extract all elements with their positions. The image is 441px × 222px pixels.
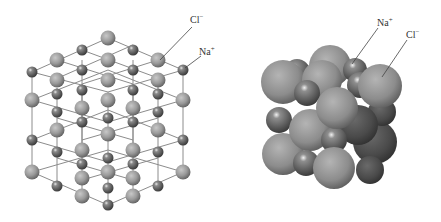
na-ion (266, 107, 292, 133)
ion-symbol: Na (199, 46, 211, 57)
na-ion (103, 153, 114, 164)
lattice-ions (25, 31, 191, 211)
na-ion (128, 117, 139, 128)
cl-ion (50, 73, 65, 88)
cl-ion (313, 147, 355, 189)
cl-ion (75, 171, 90, 186)
na-ion (153, 107, 164, 118)
na-ion (128, 159, 139, 170)
cl-ion (176, 93, 191, 108)
na-ion (52, 89, 63, 100)
cl-ion (75, 189, 90, 204)
na-leader-line (185, 56, 201, 68)
na-ion (103, 183, 114, 194)
nacl-diagram (0, 0, 441, 222)
na-label-right: Na+ (377, 16, 393, 28)
na-ion (77, 117, 88, 128)
space-filling-model (261, 28, 407, 189)
cl-ion (151, 53, 166, 68)
ion-charge: + (211, 45, 215, 53)
cl-ion (101, 73, 116, 88)
na-ion (153, 147, 164, 158)
na-ion (52, 147, 63, 158)
na-ion (77, 159, 88, 170)
cl-ion (151, 123, 166, 138)
na-ion (356, 156, 384, 184)
na-ion (27, 67, 38, 78)
ion-charge: − (415, 28, 419, 36)
na-leader-line (352, 28, 378, 64)
cl-ion (25, 165, 40, 180)
cl-ion (101, 93, 116, 108)
cl-label-left: Cl− (190, 13, 203, 25)
na-ion (27, 135, 38, 146)
cl-ion (25, 93, 40, 108)
cl-ion (50, 123, 65, 138)
na-ion (153, 181, 164, 192)
na-ion (52, 181, 63, 192)
cl-ion (316, 87, 358, 129)
cl-ion (176, 165, 191, 180)
na-ion (128, 85, 139, 96)
na-ion (294, 80, 320, 106)
ion-symbol: Na (377, 17, 389, 28)
na-ion (153, 89, 164, 100)
ion-charge: + (389, 16, 393, 24)
ball-and-stick-model (25, 27, 202, 211)
na-ion (77, 45, 88, 56)
cl-ion (151, 73, 166, 88)
cl-ion (101, 127, 116, 142)
cl-label-right: Cl− (406, 28, 419, 40)
cl-ion (50, 53, 65, 68)
na-ion (128, 45, 139, 56)
na-ion (178, 135, 189, 146)
cl-ion (75, 101, 90, 116)
na-ion (77, 85, 88, 96)
cl-ion (358, 64, 402, 108)
ion-charge: − (199, 13, 203, 21)
na-ion (77, 65, 88, 76)
cl-ion (126, 143, 141, 158)
na-ion (103, 200, 114, 211)
cl-ion (101, 31, 116, 46)
na-label-left: Na+ (199, 45, 215, 57)
cl-ion (101, 165, 116, 180)
cl-ion (126, 189, 141, 204)
na-ion (128, 65, 139, 76)
na-ion (52, 107, 63, 118)
cl-ion (75, 143, 90, 158)
cl-ion (126, 101, 141, 116)
cl-ion (126, 171, 141, 186)
cl-leader-line (160, 27, 192, 60)
na-ion (103, 113, 114, 124)
cl-ion (101, 53, 116, 68)
